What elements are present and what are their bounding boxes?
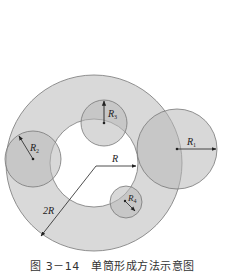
- circle-r4: R4: [110, 186, 142, 218]
- figure-caption: 图 3－14 单筒形成方法示意图: [0, 257, 225, 273]
- label-outer-radius: 2R: [43, 205, 54, 216]
- label-inner-radius: R: [111, 153, 118, 164]
- circle-r2: R2: [5, 131, 61, 187]
- radius-r-arrow: R: [96, 153, 136, 166]
- circle-r1: R1: [137, 109, 217, 189]
- circle-r3: R3: [81, 100, 127, 146]
